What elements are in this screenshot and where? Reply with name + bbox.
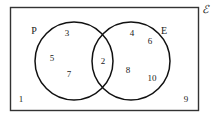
universal-set-label: ℰ — [202, 4, 209, 15]
element-4: 4 — [130, 29, 135, 38]
element-5: 5 — [50, 54, 55, 63]
element-2: 2 — [101, 57, 106, 66]
set-label-e: E — [161, 26, 167, 36]
element-7: 7 — [67, 70, 72, 79]
element-6: 6 — [148, 37, 153, 46]
venn-diagram-canvas — [0, 0, 213, 118]
element-3: 3 — [65, 29, 70, 38]
set-label-p: P — [31, 26, 37, 36]
element-8: 8 — [126, 66, 131, 75]
element-10: 10 — [148, 74, 157, 83]
element-9: 9 — [184, 95, 189, 104]
element-1: 1 — [19, 95, 24, 104]
venn-diagram: ℰ P E 3 5 7 2 4 6 8 10 1 9 — [0, 0, 213, 118]
